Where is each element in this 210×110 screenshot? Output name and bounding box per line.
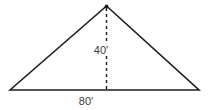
base-dimension-label: 80′	[79, 95, 93, 107]
height-dimension-label: 40′	[94, 44, 108, 56]
apex-vertex-dot	[105, 5, 109, 9]
triangle-diagram-svg: 40′ 80′	[0, 0, 210, 110]
triangle-diagram: 40′ 80′	[0, 0, 210, 110]
